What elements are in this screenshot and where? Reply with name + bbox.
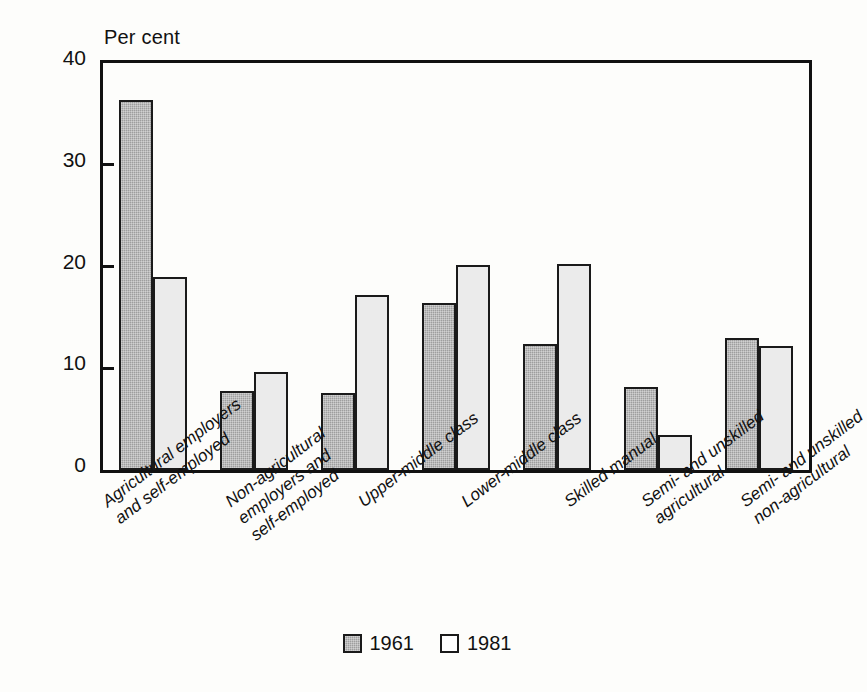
plot-inner bbox=[103, 63, 809, 470]
bar-1981-3 bbox=[355, 295, 389, 470]
y-axis-tick-label: 30 bbox=[34, 148, 86, 172]
bar-1961-1 bbox=[119, 100, 153, 470]
y-axis-tick-label: 10 bbox=[34, 351, 86, 375]
light-swatch bbox=[440, 634, 459, 653]
y-axis-tick-label: 40 bbox=[34, 46, 86, 70]
legend-label: 1961 bbox=[370, 632, 415, 655]
dark-hatched-swatch bbox=[343, 634, 362, 653]
x-axis-category-labels: Agricultural employersand self-employedN… bbox=[0, 467, 854, 627]
legend-label: 1981 bbox=[467, 632, 512, 655]
plot-area bbox=[100, 60, 812, 473]
y-axis-tick bbox=[103, 163, 114, 166]
y-axis-tick-label: 20 bbox=[34, 250, 86, 274]
legend-item-1961: 1961 bbox=[343, 632, 415, 655]
y-axis-tick bbox=[103, 367, 114, 370]
y-axis-tick bbox=[103, 265, 114, 268]
chart-legend: 19611981 bbox=[0, 632, 854, 655]
legend-item-1981: 1981 bbox=[440, 632, 512, 655]
